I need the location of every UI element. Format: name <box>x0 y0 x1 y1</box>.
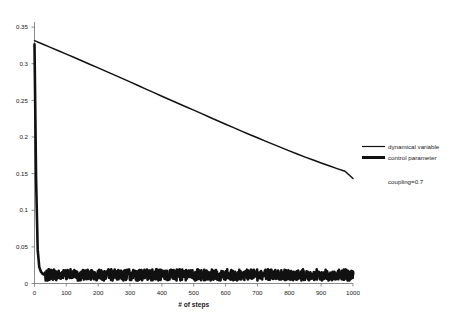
legend-label-control-parameter: control parameter <box>388 154 437 161</box>
x-tick-label: 800 <box>284 289 295 296</box>
x-tick-label: 900 <box>316 289 327 296</box>
legend-label-dynamical-variable: dynamical variable <box>388 143 440 150</box>
x-tick-label: 400 <box>157 289 168 296</box>
x-tick-label: 600 <box>220 289 231 296</box>
y-tick-label: 0.05 <box>16 243 29 250</box>
x-tick-label: 700 <box>252 289 263 296</box>
y-tick-label: 0.3 <box>19 60 28 67</box>
x-tick-label: 300 <box>125 289 136 296</box>
y-tick-label: 0.25 <box>16 97 29 104</box>
y-tick-label: 0.15 <box>16 170 29 177</box>
x-tick-label: 1000 <box>346 289 360 296</box>
y-tick-label: 0.35 <box>16 23 29 30</box>
coupling-annotation: coupling=0.7 <box>388 178 424 185</box>
x-tick-label: 200 <box>93 289 104 296</box>
y-tick-label: 0.2 <box>19 133 28 140</box>
chart-figure: 0 0.05 0.1 0.15 0.2 0.25 0.3 0.35 0 100 … <box>0 0 458 315</box>
x-tick-label: 100 <box>61 289 72 296</box>
x-tick-label: 0 <box>33 289 37 296</box>
x-axis-title: # of steps <box>178 301 209 309</box>
y-tick-label: 0.1 <box>19 206 28 213</box>
x-tick-label: 500 <box>189 289 200 296</box>
y-tick-label: 0 <box>25 280 29 287</box>
line-chart: 0 0.05 0.1 0.15 0.2 0.25 0.3 0.35 0 100 … <box>0 0 458 315</box>
